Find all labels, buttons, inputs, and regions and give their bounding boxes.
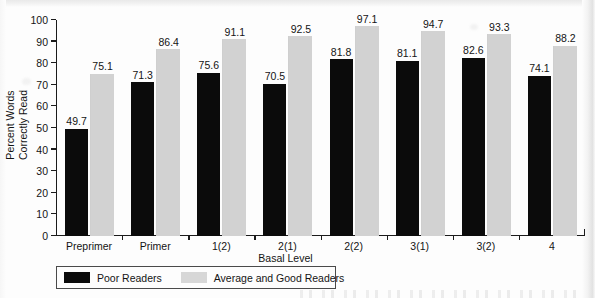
x-tick bbox=[188, 236, 189, 240]
bar-average-good-readers: 88.2 bbox=[553, 46, 577, 237]
bar-average-good-readers: 75.1 bbox=[90, 74, 114, 236]
x-tick bbox=[254, 236, 255, 240]
bar-poor-readers: 74.1 bbox=[528, 76, 551, 236]
x-axis-category-label: 3(1) bbox=[410, 241, 429, 252]
bar-poor-readers: 81.8 bbox=[330, 59, 353, 236]
legend-item-average-good-readers: Average and Good Readers bbox=[181, 272, 345, 284]
bar-value-label: 49.7 bbox=[66, 116, 86, 127]
bar-group: 49.775.1Preprimer bbox=[65, 20, 113, 236]
bar-average-good-readers: 86.4 bbox=[156, 49, 180, 236]
x-axis-category-label: 4 bbox=[549, 241, 555, 252]
y-tick bbox=[51, 170, 56, 171]
y-axis-line bbox=[56, 20, 57, 236]
bar-value-label: 81.1 bbox=[397, 48, 417, 59]
y-tick-label: 50 bbox=[36, 123, 48, 134]
bar-value-label: 82.6 bbox=[463, 45, 483, 56]
bar-average-good-readers: 93.3 bbox=[487, 34, 511, 236]
y-tick-label: 90 bbox=[36, 36, 48, 47]
y-tick-label: 40 bbox=[36, 144, 48, 155]
x-axis-title-text: Basal Level bbox=[258, 252, 312, 264]
bar-average-good-readers: 97.1 bbox=[355, 26, 379, 236]
bar-value-label: 70.5 bbox=[265, 71, 285, 82]
y-tick bbox=[51, 127, 56, 128]
bar-poor-readers: 75.6 bbox=[197, 73, 220, 236]
chart-legend: Poor Readers Average and Good Readers bbox=[56, 266, 336, 289]
x-tick bbox=[453, 236, 454, 240]
bar-group: 75.691.11(2) bbox=[197, 20, 245, 236]
y-tick-label: 100 bbox=[30, 15, 48, 26]
y-tick bbox=[51, 19, 56, 20]
y-tick bbox=[51, 213, 56, 214]
bar-value-label: 88.2 bbox=[555, 33, 575, 44]
y-tick-label: 0 bbox=[42, 231, 48, 242]
x-tick bbox=[321, 236, 322, 240]
y-tick bbox=[51, 105, 56, 106]
x-axis-category-label: Primer bbox=[140, 241, 171, 252]
y-tick bbox=[51, 192, 56, 193]
y-tick-label: 30 bbox=[36, 166, 48, 177]
x-tick bbox=[387, 236, 388, 240]
bar-value-label: 75.1 bbox=[92, 61, 112, 72]
bar-value-label: 81.8 bbox=[331, 47, 351, 58]
bar-group: 82.693.33(2) bbox=[462, 20, 510, 236]
y-tick-label: 60 bbox=[36, 101, 48, 112]
x-axis-category-label: 1(2) bbox=[212, 241, 231, 252]
x-axis-category-label: Preprimer bbox=[66, 241, 112, 252]
x-tick bbox=[122, 236, 123, 240]
bar-group: 71.386.4Primer bbox=[131, 20, 179, 236]
y-tick bbox=[51, 62, 56, 63]
x-tick bbox=[519, 236, 520, 240]
x-axis-category-label: 2(2) bbox=[344, 241, 363, 252]
y-tick bbox=[51, 148, 56, 149]
plot-area: 0102030405060708090100 49.775.1Preprimer… bbox=[56, 20, 585, 236]
y-tick-label: 70 bbox=[36, 80, 48, 91]
legend-swatch-black bbox=[64, 272, 90, 283]
bar-group: 74.188.24 bbox=[528, 20, 576, 236]
bar-poor-readers: 81.1 bbox=[396, 61, 419, 236]
scan-bottom-text-ghost bbox=[300, 290, 585, 298]
bar-group: 81.897.12(2) bbox=[330, 20, 378, 236]
bar-value-label: 94.7 bbox=[423, 19, 443, 30]
y-tick-label: 80 bbox=[36, 58, 48, 69]
bar-group: 81.194.73(1) bbox=[396, 20, 444, 236]
x-axis-end-tick bbox=[584, 229, 585, 236]
bar-poor-readers: 71.3 bbox=[131, 82, 154, 236]
legend-swatch-gray bbox=[181, 272, 207, 283]
bar-value-label: 93.3 bbox=[489, 22, 509, 33]
y-tick-label: 20 bbox=[36, 188, 48, 199]
bar-value-label: 91.1 bbox=[225, 27, 245, 38]
bar-value-label: 71.3 bbox=[132, 70, 152, 81]
y-axis-title: Percent Words Correctly Read bbox=[0, 70, 34, 180]
legend-label-poor-readers: Poor Readers bbox=[97, 272, 162, 284]
bar-value-label: 86.4 bbox=[158, 37, 178, 48]
y-tick-label: 10 bbox=[36, 209, 48, 220]
x-axis-category-label: 2(1) bbox=[278, 241, 297, 252]
bar-average-good-readers: 92.5 bbox=[288, 36, 312, 236]
x-axis-title: Basal Level bbox=[0, 252, 595, 264]
y-axis-title-line-1: Percent Words bbox=[5, 90, 16, 159]
bar-value-label: 92.5 bbox=[291, 24, 311, 35]
y-axis-title-line-2: Correctly Read bbox=[18, 90, 29, 160]
bar-group: 70.592.52(1) bbox=[263, 20, 311, 236]
y-tick bbox=[51, 40, 56, 41]
legend-item-poor-readers: Poor Readers bbox=[64, 272, 162, 284]
chart-page: Percent Words Correctly Read 01020304050… bbox=[0, 0, 595, 298]
bar-poor-readers: 49.7 bbox=[65, 129, 88, 236]
y-tick bbox=[51, 84, 56, 85]
bar-value-label: 74.1 bbox=[529, 63, 549, 74]
bar-poor-readers: 70.5 bbox=[263, 84, 286, 236]
bar-average-good-readers: 94.7 bbox=[421, 31, 445, 236]
bar-value-label: 75.6 bbox=[199, 60, 219, 71]
bar-poor-readers: 82.6 bbox=[462, 58, 485, 236]
scan-top-band bbox=[0, 0, 595, 7]
x-axis-category-label: 3(2) bbox=[476, 241, 495, 252]
bar-average-good-readers: 91.1 bbox=[222, 39, 246, 236]
y-tick bbox=[51, 235, 56, 236]
legend-label-average-good-readers: Average and Good Readers bbox=[214, 272, 345, 284]
bar-value-label: 97.1 bbox=[357, 14, 377, 25]
